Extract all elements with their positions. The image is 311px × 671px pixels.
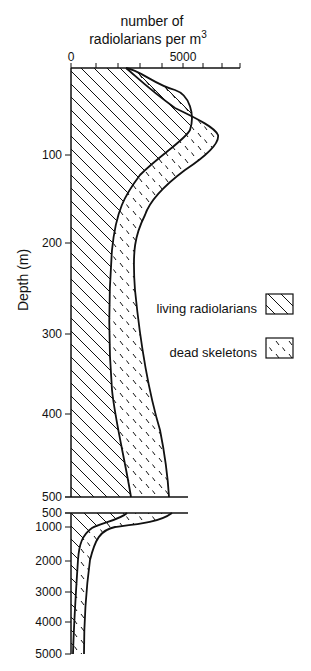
y-tick-3000: 3000 (35, 585, 62, 599)
y-tick-1000: 1000 (35, 520, 62, 534)
y-tick-500-upper: 500 (42, 490, 62, 504)
y-tick-200: 200 (42, 236, 62, 250)
y-axis-label: Depth (m) (15, 249, 31, 311)
y-tick-4000: 4000 (35, 615, 62, 629)
legend-swatch-living (266, 294, 293, 314)
legend: living radiolarians dead skeletons (157, 294, 293, 360)
y-tick-5000: 5000 (35, 647, 62, 661)
chart-title-line2: radiolarians per m3 (89, 29, 207, 47)
y-tick-300: 300 (42, 327, 62, 341)
legend-label-living: living radiolarians (157, 301, 258, 316)
y-axis-lower: 500 1000 2000 3000 4000 5000 (35, 506, 188, 661)
x-tick-5000: 5000 (170, 50, 197, 64)
y-tick-500-lower: 500 (42, 506, 62, 520)
y-tick-100: 100 (42, 148, 62, 162)
y-tick-2000: 2000 (35, 554, 62, 568)
legend-label-dead: dead skeletons (170, 345, 258, 360)
y-tick-400: 400 (42, 407, 62, 421)
legend-swatch-dead (266, 338, 293, 358)
x-tick-0: 0 (68, 50, 75, 64)
radiolarian-depth-chart: number of radiolarians per m3 0 5000 (0, 0, 311, 671)
chart-title-line1: number of (120, 13, 183, 29)
x-axis: 0 5000 (68, 50, 240, 68)
